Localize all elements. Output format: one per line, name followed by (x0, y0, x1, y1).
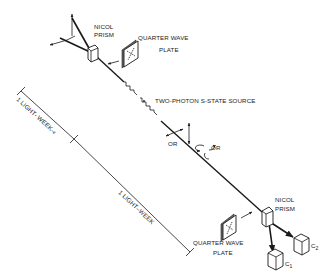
counter-c2-label: C2 (311, 242, 319, 251)
source-label: TWO-PHOTON S-STATE SOURCE (155, 97, 255, 104)
nicol-prism-top-label-2: PRISM (94, 31, 114, 38)
quarter-wave-bottom-label-2: PLATE (213, 249, 233, 256)
nicol-prism-bottom (262, 207, 293, 252)
counter-c1-label: C1 (285, 260, 293, 269)
or-label-circular: OR (211, 144, 221, 151)
photon-beam-lower (161, 121, 262, 212)
nicol-prism-bottom-label-1: NICOL (275, 196, 295, 203)
distance-long-label: 1 LIGHT–WEEK (117, 189, 156, 226)
distance-line-short (17, 87, 78, 143)
counter-c2 (294, 234, 309, 255)
quarter-wave-plate-bottom (221, 212, 252, 241)
quarter-wave-plate-top (108, 40, 138, 68)
quarter-wave-top-label-2: PLATE (159, 46, 179, 53)
or-label-linear: OR (168, 140, 178, 147)
distance-short-label: 1 LIGHT- WEEK–ε (15, 96, 58, 136)
quarter-wave-bottom-label-1: QUARTER WAVE (193, 239, 244, 246)
nicol-prism-top-label-1: NICOL (94, 23, 114, 30)
quarter-wave-top-label-1: QUARTER WAVE (138, 34, 189, 41)
nicol-prism-top (50, 14, 98, 62)
epr-experiment-diagram: NICOL PRISM QUARTER WAVE PLATE TWO-PHOTO… (0, 0, 334, 278)
nicol-prism-bottom-label-2: PRISM (275, 205, 295, 212)
distance-line-long (74, 139, 194, 256)
counter-c1 (268, 249, 283, 270)
